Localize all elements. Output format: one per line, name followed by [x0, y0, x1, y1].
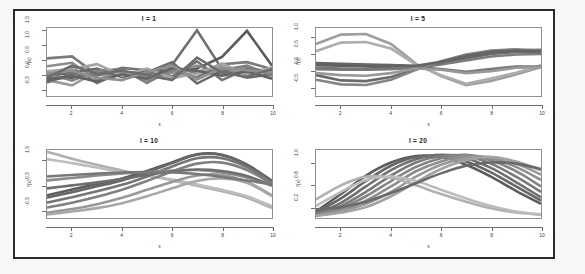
x-tick-label: 4	[381, 110, 401, 116]
y-tick-mark	[42, 186, 46, 187]
y-tick-label: 0.6	[293, 171, 299, 197]
x-tick-label: 8	[213, 232, 233, 238]
x-tick-mark	[71, 105, 72, 109]
y-tick-mark	[42, 160, 46, 161]
x-tick-label: 6	[162, 110, 182, 116]
x-axis-line	[315, 227, 542, 228]
x-tick-label: 6	[162, 232, 182, 238]
plot-panel-2: l = 5f(x)x-0.50.00.51.0246810	[284, 13, 552, 135]
series-canvas	[47, 28, 272, 96]
y-tick-label: 1.5	[24, 146, 30, 172]
y-tick-mark	[311, 71, 315, 72]
x-tick-label: 8	[482, 232, 502, 238]
x-tick-label: 2	[330, 232, 350, 238]
x-tick-label: 4	[381, 232, 401, 238]
panel-title: l = 1	[15, 15, 283, 22]
x-tick-mark	[122, 105, 123, 109]
x-tick-mark	[172, 105, 173, 109]
x-tick-mark	[391, 227, 392, 231]
x-tick-mark	[542, 105, 543, 109]
x-axis-line	[46, 105, 273, 106]
x-tick-label: 2	[61, 232, 81, 238]
x-axis-label: x	[315, 243, 542, 249]
y-tick-label: 0.2	[293, 194, 299, 220]
x-axis-line	[46, 227, 273, 228]
x-tick-mark	[273, 105, 274, 109]
panel-title: l = 10	[15, 137, 283, 144]
plot-panel-1: l = 1f(x)x-0.50.00.51.01.5246810	[15, 13, 283, 135]
panel-title: l = 20	[284, 137, 552, 144]
x-tick-mark	[441, 227, 442, 231]
x-tick-mark	[223, 227, 224, 231]
x-tick-mark	[122, 227, 123, 231]
y-tick-mark	[311, 185, 315, 186]
plot-area	[315, 149, 542, 219]
y-tick-mark	[42, 90, 46, 91]
x-axis-line	[315, 105, 542, 106]
x-tick-mark	[492, 227, 493, 231]
y-tick-label: 1.5	[24, 16, 30, 42]
x-tick-mark	[71, 227, 72, 231]
x-tick-label: 10	[532, 110, 552, 116]
plot-area	[46, 27, 273, 97]
x-tick-mark	[340, 227, 341, 231]
x-tick-mark	[273, 227, 274, 231]
x-tick-label: 4	[112, 110, 132, 116]
x-tick-label: 10	[263, 110, 283, 116]
y-tick-mark	[42, 30, 46, 31]
panel-title: l = 5	[284, 15, 552, 22]
x-tick-mark	[492, 105, 493, 109]
x-tick-label: 6	[431, 232, 451, 238]
x-axis-label: x	[46, 243, 273, 249]
y-tick-mark	[42, 45, 46, 46]
x-tick-label: 2	[330, 110, 350, 116]
x-axis-label: x	[46, 121, 273, 127]
x-tick-label: 10	[532, 232, 552, 238]
y-tick-mark	[311, 54, 315, 55]
y-tick-mark	[311, 208, 315, 209]
x-tick-mark	[340, 105, 341, 109]
x-tick-label: 10	[263, 232, 283, 238]
y-tick-mark	[42, 60, 46, 61]
x-tick-label: 6	[431, 110, 451, 116]
y-tick-mark	[42, 75, 46, 76]
series-canvas	[47, 150, 272, 218]
x-tick-label: 8	[482, 110, 502, 116]
x-tick-mark	[223, 105, 224, 109]
series-canvas	[316, 28, 541, 96]
y-tick-label: 1.0	[293, 149, 299, 175]
plot-area	[46, 149, 273, 219]
y-tick-mark	[42, 211, 46, 212]
plot-area	[315, 27, 542, 97]
y-tick-label: 1.0	[293, 23, 299, 49]
figure-canvas: l = 1f(x)x-0.50.00.51.01.5246810l = 5f(x…	[0, 0, 585, 274]
x-tick-mark	[391, 105, 392, 109]
x-tick-label: 2	[61, 110, 81, 116]
y-tick-mark	[311, 88, 315, 89]
x-tick-mark	[542, 227, 543, 231]
plot-panel-3: l = 10f(x)x-0.50.51.5246810	[15, 135, 283, 257]
x-axis-label: x	[315, 121, 542, 127]
plot-panel-4: l = 20f(x)x0.20.61.0246810	[284, 135, 552, 257]
y-tick-mark	[311, 163, 315, 164]
x-tick-mark	[441, 105, 442, 109]
x-tick-mark	[172, 227, 173, 231]
y-tick-label: -0.5	[24, 197, 30, 223]
series-canvas	[316, 150, 541, 218]
x-tick-label: 4	[112, 232, 132, 238]
figure-frame: l = 1f(x)x-0.50.00.51.01.5246810l = 5f(x…	[13, 9, 555, 259]
y-tick-label: 0.5	[24, 172, 30, 198]
x-tick-label: 8	[213, 110, 233, 116]
y-tick-mark	[311, 37, 315, 38]
